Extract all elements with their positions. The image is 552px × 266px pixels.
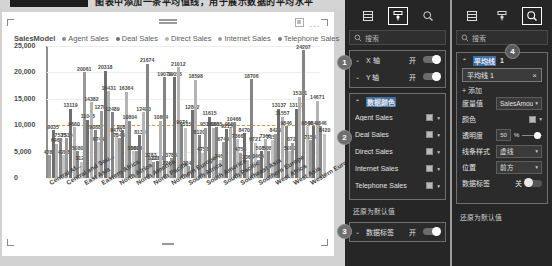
- color-swatch[interactable]: [529, 116, 536, 123]
- bar-value-label: 20061: [77, 66, 91, 72]
- fields-icon[interactable]: [358, 7, 378, 25]
- chevron-down-icon[interactable]: ▾: [437, 166, 440, 172]
- average-line-item[interactable]: 平均线 1 ×: [462, 68, 542, 82]
- bar[interactable]: 4288: [48, 155, 51, 178]
- chevron-down-icon[interactable]: ▾: [437, 149, 440, 155]
- handle-top-center[interactable]: [159, 19, 177, 26]
- color-swatch[interactable]: [426, 131, 433, 138]
- color-swatch[interactable]: [426, 148, 433, 155]
- transparency-slider[interactable]: [522, 132, 542, 139]
- bar-value-label: 13119: [63, 102, 77, 108]
- color-item-row[interactable]: Deal Sales ▾: [350, 126, 445, 143]
- analytics-magnifier-icon[interactable]: [418, 7, 438, 25]
- handle-bottom-left[interactable]: [7, 239, 14, 246]
- bar-group: 674992159563104667366: [222, 46, 239, 178]
- search-placeholder: 搜索: [365, 33, 379, 43]
- chevron-down-icon[interactable]: ▾: [437, 115, 440, 121]
- step-badge-1: 1: [337, 55, 352, 70]
- legend-item[interactable]: Direct Sales: [165, 34, 211, 43]
- chevron-down-icon: ⌄: [355, 228, 362, 235]
- color-item-row[interactable]: Telephone Sales ▾: [350, 177, 445, 194]
- average-line-label: 平均线: [473, 56, 496, 66]
- bar[interactable]: 12489: [111, 112, 114, 178]
- step-badge-2: 2: [337, 130, 352, 145]
- measure-label: 度量值: [462, 98, 492, 108]
- legend-item[interactable]: Internet Sales: [218, 34, 270, 43]
- legend-item[interactable]: Deal Sales: [116, 34, 158, 43]
- data-labels-toggle[interactable]: [525, 180, 542, 187]
- measure-select[interactable]: SalesAmou... ▾: [496, 97, 542, 110]
- bar-group: 34685080736650807154: [257, 46, 274, 178]
- color-swatch[interactable]: [426, 182, 433, 189]
- reset-defaults-link[interactable]: 还原为默认值: [460, 212, 502, 222]
- legend-label: Direct Sales: [171, 34, 211, 43]
- bar-value-label: 9846: [280, 120, 292, 126]
- y-axis-toggle[interactable]: [423, 73, 440, 80]
- data-colors-header[interactable]: ⌃ 数据颜色: [350, 94, 445, 109]
- add-average-line-link[interactable]: + 添加: [457, 82, 547, 95]
- color-swatch[interactable]: [426, 114, 433, 121]
- average-line-header[interactable]: ⌃ 平均线 1: [457, 53, 547, 68]
- color-swatch[interactable]: [426, 165, 433, 172]
- y-axis-tick: 0: [14, 174, 44, 181]
- chevron-down-icon: ⌄: [355, 56, 362, 63]
- search-input[interactable]: 搜索: [349, 30, 446, 45]
- top-caption-text: 图表中添加一条平均值线，用于展示数据的平均水平: [95, 0, 314, 8]
- chevron-down-icon[interactable]: ▾: [539, 116, 542, 122]
- position-select[interactable]: 前方 ▾: [496, 161, 542, 174]
- legend-label: Agent Sales: [68, 34, 108, 43]
- legend-label: Telephone Sales: [284, 34, 339, 43]
- color-item-row[interactable]: Direct Sales ▾: [350, 143, 445, 160]
- color-item-label: Telephone Sales: [355, 182, 422, 189]
- search-icon: [354, 34, 362, 42]
- bar-value-label: 16364: [119, 85, 133, 91]
- color-item-row[interactable]: Internet Sales ▾: [350, 160, 445, 177]
- focus-mode-icon[interactable]: [295, 18, 304, 27]
- search-input[interactable]: 搜索: [456, 30, 548, 45]
- close-icon[interactable]: ×: [532, 71, 537, 80]
- handle-top-right[interactable]: [321, 19, 328, 26]
- line-style-select[interactable]: 虚线 ▾: [496, 145, 542, 158]
- legend-item[interactable]: Telephone Sales: [278, 34, 339, 43]
- x-axis-category-labels: Central Af...Central and Sou...East Asia…: [48, 180, 338, 240]
- legend-label: Deal Sales: [122, 34, 158, 43]
- handle-bottom-center[interactable]: [162, 243, 174, 245]
- color-item-label: Internet Sales: [355, 165, 422, 172]
- bar-value-label: 5080: [72, 145, 84, 151]
- legend-swatch: [116, 37, 120, 41]
- transparency-value[interactable]: 50: [496, 129, 511, 141]
- data-labels-row[interactable]: ⌄ 数据标签 开: [350, 223, 445, 240]
- report-visual-card[interactable]: ... SalesModel Agent Sales Deal Sales Di…: [2, 12, 334, 256]
- data-labels-label: 数据标签: [462, 178, 492, 188]
- chevron-down-icon: ▾: [535, 100, 538, 106]
- chevron-down-icon[interactable]: ▾: [437, 183, 440, 189]
- handle-top-left[interactable]: [7, 19, 14, 26]
- x-axis-row[interactable]: ⌄ X 轴 开: [350, 51, 445, 68]
- bar-value-label: 21012: [171, 61, 185, 67]
- more-options-icon[interactable]: ...: [309, 20, 320, 26]
- visual-header-icons: ...: [295, 18, 320, 27]
- chevron-down-icon[interactable]: ▾: [437, 132, 440, 138]
- data-labels-label: 数据标签: [366, 227, 405, 237]
- y-axis-row[interactable]: ⌄ Y 轴 开: [350, 68, 445, 85]
- legend-swatch: [278, 37, 282, 41]
- bar-value-label: 8420: [319, 127, 331, 133]
- format-paint-icon[interactable]: [492, 7, 512, 25]
- bar[interactable]: 20061: [83, 72, 86, 178]
- pane-tabbar: [345, 4, 450, 28]
- legend-item[interactable]: Agent Sales: [62, 34, 108, 43]
- data-labels-row: 数据标签 关: [457, 175, 547, 191]
- data-labels-toggle[interactable]: [423, 228, 440, 235]
- data-labels-state: 关: [515, 178, 522, 188]
- y-axis-tick: 10,000: [14, 121, 44, 128]
- position-label: 位置: [462, 162, 492, 172]
- format-paint-icon[interactable]: [388, 7, 408, 25]
- bar-group: 7546908816364108045080: [118, 46, 135, 178]
- handle-bottom-right[interactable]: [321, 239, 328, 246]
- fields-icon[interactable]: [462, 7, 482, 25]
- data-labels-state: 开: [409, 227, 416, 237]
- analytics-magnifier-icon[interactable]: [522, 7, 542, 25]
- reset-defaults-link[interactable]: 还原为默认值: [353, 206, 395, 216]
- x-axis-toggle[interactable]: [423, 56, 440, 63]
- color-item-row[interactable]: Agent Sales ▾: [350, 109, 445, 126]
